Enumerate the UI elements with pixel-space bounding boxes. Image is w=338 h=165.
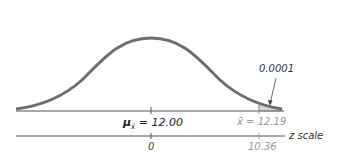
normal-curve-chart <box>0 0 338 165</box>
xbar-label: x̄ = 12.19 <box>237 116 286 127</box>
tail-area-label: 0.0001 <box>259 63 294 74</box>
z-zero-label: 0 <box>148 141 154 152</box>
mu-symbol: μ <box>123 116 131 129</box>
bell-curve <box>16 38 282 109</box>
mu-subscript: x̄ <box>131 123 135 131</box>
tail-arrow <box>270 78 276 104</box>
z-scale-label: z scale <box>289 130 323 141</box>
mean-label: μx̄ = 12.00 <box>123 116 183 131</box>
mean-value: = 12.00 <box>139 116 183 129</box>
z-value-label: 10.36 <box>248 141 277 152</box>
